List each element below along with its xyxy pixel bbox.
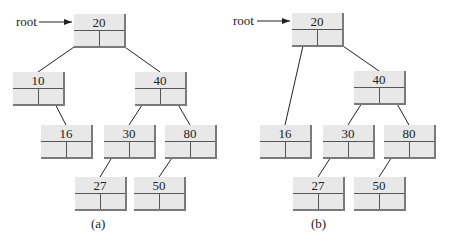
tree-node: 20: [292, 13, 344, 47]
node-divider: [348, 142, 349, 157]
tree-node: 27: [75, 177, 127, 211]
node-value: 80: [384, 125, 434, 142]
node-divider: [159, 194, 160, 209]
tree-node: 80: [165, 125, 217, 159]
node-divider: [190, 142, 191, 157]
node-divider: [318, 194, 319, 209]
tree-node: 50: [354, 177, 406, 211]
node-value: 30: [323, 125, 373, 142]
node-value: 30: [104, 125, 154, 142]
node-divider: [317, 30, 318, 45]
node-divider: [409, 142, 410, 157]
node-divider: [379, 194, 380, 209]
tree-node: 50: [134, 177, 186, 211]
tree-node: 40: [354, 71, 406, 105]
node-divider: [66, 142, 67, 157]
tree-node: 16: [41, 125, 93, 159]
node-divider: [129, 142, 130, 157]
tree-node: 16: [260, 125, 312, 159]
node-value: 20: [74, 14, 124, 31]
node-divider: [379, 88, 380, 103]
tree-node: 10: [13, 72, 65, 106]
caption-b: (b): [311, 216, 326, 232]
tree-node: 40: [135, 72, 187, 106]
node-value: 16: [41, 125, 91, 142]
node-value: 40: [354, 71, 404, 88]
node-divider: [160, 89, 161, 104]
root-label-b: root: [233, 13, 254, 29]
node-value: 16: [260, 125, 310, 142]
tree-node: 80: [384, 125, 436, 159]
tree-node: 27: [293, 177, 345, 211]
node-divider: [99, 31, 100, 46]
tree-node: 30: [104, 125, 156, 159]
tree-edge: [285, 37, 305, 125]
node-value: 20: [292, 13, 342, 30]
root-label-a: root: [16, 14, 37, 30]
node-divider: [100, 194, 101, 209]
node-value: 50: [134, 177, 184, 194]
tree-node: 30: [323, 125, 375, 159]
node-value: 40: [135, 72, 185, 89]
caption-a: (a): [91, 216, 105, 232]
node-value: 27: [75, 177, 125, 194]
node-divider: [285, 142, 286, 157]
node-divider: [38, 89, 39, 104]
node-value: 50: [354, 177, 404, 194]
node-value: 27: [293, 177, 343, 194]
tree-node: 20: [74, 14, 126, 48]
node-value: 80: [165, 125, 215, 142]
node-value: 10: [13, 72, 63, 89]
